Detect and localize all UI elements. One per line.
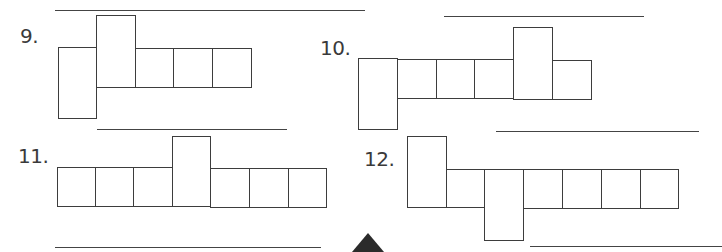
net-12-face [484, 169, 524, 241]
net-11-face [172, 136, 211, 207]
net-10-face [474, 59, 514, 99]
answer-line-10-bottom [496, 131, 699, 132]
answer-line-9-bottom [97, 129, 287, 130]
net-12-face [601, 169, 641, 209]
net-9-face [212, 48, 252, 88]
net-11-face [210, 168, 250, 208]
problem-9-number: 9. [20, 26, 38, 46]
answer-line-11-bottom [55, 247, 321, 248]
net-12-face [407, 136, 447, 208]
net-11-face [57, 167, 96, 207]
net-11-face [288, 168, 327, 208]
net-10-face [513, 27, 553, 100]
net-10-face [397, 59, 437, 99]
net-10-face [436, 59, 475, 99]
net-9-face [173, 48, 213, 88]
net-12-face [562, 169, 602, 209]
net-12-face [446, 169, 485, 208]
answer-line-9-top [55, 10, 365, 11]
problem-10-number: 10. [320, 38, 350, 58]
problem-11-number: 11. [18, 146, 48, 166]
net-12-face [523, 169, 563, 209]
triangle-marker-icon [352, 233, 384, 252]
net-11-face [249, 168, 289, 208]
answer-line-12-bottom [530, 246, 722, 247]
net-9-face [96, 15, 136, 88]
net-10-face [358, 58, 398, 130]
answer-line-10-top [444, 16, 644, 17]
problem-12-number: 12. [364, 149, 394, 169]
net-11-face [95, 167, 134, 207]
net-10-face [552, 60, 592, 100]
net-11-face [133, 167, 173, 207]
net-12-face [640, 169, 679, 209]
net-9-face [135, 48, 174, 88]
net-9-face [58, 47, 97, 119]
